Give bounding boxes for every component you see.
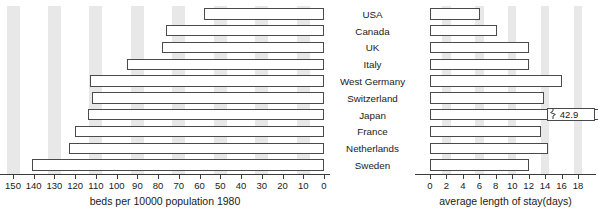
axis-tick	[463, 175, 464, 179]
axis-tick	[13, 175, 14, 179]
axis-tick	[179, 175, 180, 179]
bar-row	[415, 6, 596, 23]
bar-west-germany[interactable]	[430, 75, 562, 86]
axis-title-right: average length of stay(days)	[415, 195, 596, 207]
axis-tick-label: 30	[257, 180, 268, 191]
bar-france[interactable]	[75, 126, 324, 137]
axis-tick-label: 20	[277, 180, 288, 191]
axis-tick	[303, 175, 304, 179]
category-label-west-germany: West Germany	[330, 73, 415, 90]
axis-tick-label: 100	[109, 180, 125, 191]
bar-italy[interactable]	[127, 59, 324, 70]
axis-tick	[117, 175, 118, 179]
category-labels: USACanadaUKItalyWest GermanySwitzerlandJ…	[330, 6, 415, 174]
category-label-japan: Japan	[330, 107, 415, 124]
bar-japan[interactable]	[88, 109, 324, 120]
bar-row	[0, 140, 330, 157]
bar-row	[0, 73, 330, 90]
axis-tick	[578, 175, 579, 179]
category-label-canada: Canada	[330, 23, 415, 40]
bar-uk[interactable]	[430, 42, 529, 53]
bar-usa[interactable]	[204, 8, 324, 19]
axis-tick-label: 60	[194, 180, 205, 191]
bar-row	[415, 23, 596, 40]
bar-row	[415, 90, 596, 107]
plot-area-left	[0, 6, 330, 174]
bar-west-germany[interactable]	[90, 75, 324, 86]
axis-break-icon	[550, 108, 557, 121]
axis-tick-label: 12	[523, 180, 534, 191]
bar-canada[interactable]	[430, 25, 497, 36]
axis-tick	[262, 175, 263, 179]
axis-tick	[96, 175, 97, 179]
axis-tick	[446, 175, 447, 179]
axis-tick-label: 50	[215, 180, 226, 191]
bar-row	[0, 23, 330, 40]
axis-tick-label: 80	[153, 180, 164, 191]
axis-tick	[545, 175, 546, 179]
category-label-netherlands: Netherlands	[330, 140, 415, 157]
bar-row	[415, 40, 596, 57]
bar-switzerland[interactable]	[92, 92, 324, 103]
axis-tick-label: 4	[460, 180, 465, 191]
axis-tick	[283, 175, 284, 179]
axis-tick	[220, 175, 221, 179]
axis-tick-label: 70	[174, 180, 185, 191]
category-label-italy: Italy	[330, 56, 415, 73]
axis-tick	[430, 175, 431, 179]
japan-axis-break-callout: 42.9	[547, 108, 595, 121]
bar-sweden[interactable]	[430, 159, 529, 170]
axis-tick-label: 40	[236, 180, 247, 191]
bar-row	[0, 6, 330, 23]
japan-value-label: 42.9	[560, 109, 579, 120]
axis-tick-label: 18	[573, 180, 584, 191]
plot-area-right: 42.9	[415, 6, 596, 174]
axis-tick	[241, 175, 242, 179]
axis-tick	[34, 175, 35, 179]
axis-title-left: beds per 10000 population 1980	[0, 195, 330, 207]
bar-canada[interactable]	[166, 25, 324, 36]
bar-row	[415, 73, 596, 90]
bar-row	[0, 157, 330, 174]
bar-switzerland[interactable]	[430, 92, 544, 103]
axis-tick-label: 90	[132, 180, 143, 191]
bar-italy[interactable]	[430, 59, 529, 70]
axis-tick-label: 2	[444, 180, 449, 191]
axis-tick	[512, 175, 513, 179]
chart-left-beds: beds per 10000 population 1980 150140130…	[0, 0, 330, 218]
bar-row	[415, 140, 596, 157]
axis-tick	[529, 175, 530, 179]
bar-france[interactable]	[430, 126, 541, 137]
category-label-france: France	[330, 124, 415, 141]
axis-tick-label: 130	[47, 180, 63, 191]
bar-row	[0, 90, 330, 107]
bar-uk[interactable]	[162, 42, 324, 53]
bar-netherlands[interactable]	[69, 143, 324, 154]
axis-tick	[562, 175, 563, 179]
axis-ticks-right	[415, 175, 596, 181]
category-label-sweden: Sweden	[330, 157, 415, 174]
axis-tick	[496, 175, 497, 179]
category-label-usa: USA	[330, 6, 415, 23]
axis-tick-label: 150	[5, 180, 21, 191]
category-label-switzerland: Switzerland	[330, 90, 415, 107]
bar-row	[415, 56, 596, 73]
bar-netherlands[interactable]	[430, 143, 548, 154]
bar-row	[415, 124, 596, 141]
bar-sweden[interactable]	[32, 159, 324, 170]
chart-right-stay: 42.9 average length of stay(days) 024681…	[415, 0, 596, 218]
axis-tick-label: 8	[493, 180, 498, 191]
axis-tick-label: 110	[88, 180, 103, 191]
axis-tick-label: 0	[427, 180, 432, 191]
bar-row	[0, 107, 330, 124]
axis-tick	[137, 175, 138, 179]
axis-tick-label: 10	[298, 180, 309, 191]
bar-usa[interactable]	[430, 8, 480, 19]
axis-tick-label: 6	[477, 180, 482, 191]
axis-tick-label: 16	[556, 180, 567, 191]
bar-row	[415, 157, 596, 174]
axis-tick-label: 14	[540, 180, 551, 191]
bar-row	[0, 56, 330, 73]
axis-tick	[200, 175, 201, 179]
